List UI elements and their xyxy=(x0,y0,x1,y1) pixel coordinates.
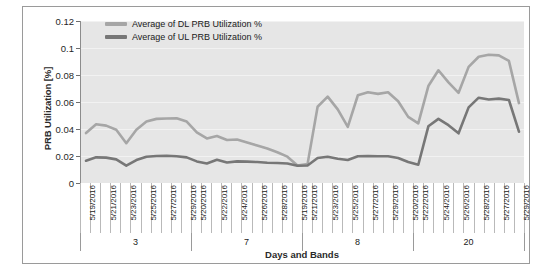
chart-legend: Average of DL PRB Utilization %Average o… xyxy=(105,19,262,42)
x-tick-separator xyxy=(363,183,364,233)
x-tick-label: 5/23/2016 xyxy=(129,185,138,221)
x-tick-label: 5/29/2016 xyxy=(189,185,198,221)
x-tick-label: 5/19/2016 xyxy=(88,185,97,221)
chart-container: PRB Utilization [%] 00.020.040.060.080.1… xyxy=(22,6,530,264)
x-tick-label: 5/24/2016 xyxy=(442,185,451,221)
x-tick-separator xyxy=(161,183,162,233)
x-tick-label: 5/23/2016 xyxy=(331,185,340,221)
x-tick-label: 5/29/2016 xyxy=(391,185,400,221)
y-tick-mark xyxy=(76,21,80,22)
x-tick-label: 5/28/2016 xyxy=(482,185,491,221)
y-tick-label: 0.04 xyxy=(24,124,74,135)
legend-label: Average of UL PRB Utilization % xyxy=(132,32,262,42)
y-tick-mark xyxy=(76,102,80,103)
x-tick-label: 5/29/2016 xyxy=(522,185,531,221)
x-tick-label: 5/27/2016 xyxy=(502,185,511,221)
group-divider xyxy=(524,233,525,251)
x-tick-separator xyxy=(231,183,232,233)
y-tick-label: 0.08 xyxy=(24,70,74,81)
x-tick-separator xyxy=(474,183,475,233)
legend-item[interactable]: Average of DL PRB Utilization % xyxy=(105,19,262,29)
x-tick-label: 5/22/2016 xyxy=(421,185,430,221)
x-tick-label: 5/25/2016 xyxy=(149,185,158,221)
y-tick-label: 0 xyxy=(24,178,74,189)
x-tick-separator xyxy=(403,183,404,233)
x-tick-separator xyxy=(252,183,253,233)
x-tick-label: 5/26/2016 xyxy=(462,185,471,221)
x-tick-separator xyxy=(211,183,212,233)
y-tick-mark xyxy=(76,129,80,130)
plot-area xyxy=(80,21,524,183)
x-tick-label: 5/19/2016 xyxy=(300,185,309,221)
x-tick-separator xyxy=(100,183,101,233)
legend-label: Average of DL PRB Utilization % xyxy=(132,19,262,29)
x-tick-label: 5/28/2016 xyxy=(280,185,289,221)
legend-item[interactable]: Average of UL PRB Utilization % xyxy=(105,32,262,42)
y-tick-label: 0.06 xyxy=(24,97,74,108)
y-tick-mark xyxy=(76,75,80,76)
x-tick-label: 5/22/2016 xyxy=(220,185,229,221)
x-tick-separator xyxy=(383,183,384,233)
y-tick-label: 0.02 xyxy=(24,151,74,162)
x-tick-separator xyxy=(120,183,121,233)
legend-swatch-icon xyxy=(105,22,127,26)
x-axis-ticks: 5/19/20165/21/20165/23/20165/25/20165/27… xyxy=(80,183,524,233)
x-tick-separator xyxy=(342,183,343,233)
x-tick-label: 5/20/2016 xyxy=(199,185,208,221)
x-tick-separator xyxy=(80,183,81,233)
x-tick-separator xyxy=(322,183,323,233)
legend-swatch-icon xyxy=(105,35,127,39)
x-tick-label: 5/26/2016 xyxy=(260,185,269,221)
series-layer xyxy=(81,21,524,183)
x-tick-separator xyxy=(141,183,142,233)
x-tick-label: 5/21/2016 xyxy=(310,185,319,221)
x-tick-separator xyxy=(181,183,182,233)
x-tick-separator xyxy=(453,183,454,233)
x-tick-label: 5/25/2016 xyxy=(351,185,360,221)
x-tick-label: 5/20/2016 xyxy=(411,185,420,221)
x-axis-title: Days and Bands xyxy=(80,249,524,260)
x-tick-label: 5/27/2016 xyxy=(371,185,380,221)
x-tick-separator xyxy=(494,183,495,233)
x-tick-separator xyxy=(433,183,434,233)
x-tick-label: 5/24/2016 xyxy=(240,185,249,221)
y-tick-label: 0.1 xyxy=(24,43,74,54)
series-line xyxy=(86,98,519,166)
y-tick-label: 0.12 xyxy=(24,16,74,27)
x-tick-label: 5/27/2016 xyxy=(169,185,178,221)
x-tick-separator xyxy=(514,183,515,233)
x-tick-label: 5/21/2016 xyxy=(109,185,118,221)
series-line xyxy=(86,55,519,166)
y-tick-mark xyxy=(76,156,80,157)
y-tick-mark xyxy=(76,48,80,49)
x-tick-separator xyxy=(272,183,273,233)
x-tick-separator xyxy=(292,183,293,233)
